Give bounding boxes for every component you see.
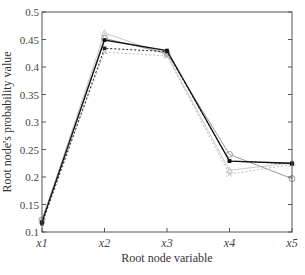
y-axis: 0.10.150.20.250.30.350.40.450.5 (20, 6, 292, 238)
y-axis-title: Root node's probability value (0, 51, 14, 192)
y-tick-label: 0.45 (20, 34, 40, 46)
series-1-line (40, 38, 294, 224)
y-tick-label: 0.3 (25, 116, 39, 128)
x-tick-label: x1 (35, 236, 47, 250)
series-layer (39, 30, 295, 226)
data-point-square-icon (103, 38, 107, 42)
plot-frame (42, 12, 292, 232)
data-point-square-icon (165, 49, 169, 53)
data-point-square-icon (228, 159, 232, 163)
series-4-line (39, 30, 295, 224)
y-tick-label: 0.5 (25, 6, 39, 18)
series-5-line (40, 50, 295, 223)
x-axis: x1x2x3x4x5 (35, 228, 297, 250)
y-tick-label: 0.2 (25, 171, 39, 183)
y-tick-label: 0.35 (20, 89, 40, 101)
series-3-line (39, 35, 295, 223)
y-tick-label: 0.25 (20, 144, 40, 156)
data-point-square-icon (103, 47, 107, 51)
x-axis-title: Root node variable (121, 251, 212, 265)
x-tick-label: x5 (285, 236, 297, 250)
x-tick-label: x2 (98, 236, 110, 250)
line-chart: 0.10.150.20.250.30.350.40.450.5 x1x2x3x4… (0, 0, 305, 275)
y-tick-label: 0.4 (25, 61, 39, 73)
y-tick-label: 0.15 (20, 199, 40, 211)
x-tick-label: x4 (223, 236, 235, 250)
x-tick-label: x3 (160, 236, 172, 250)
series-2-line (40, 47, 294, 226)
